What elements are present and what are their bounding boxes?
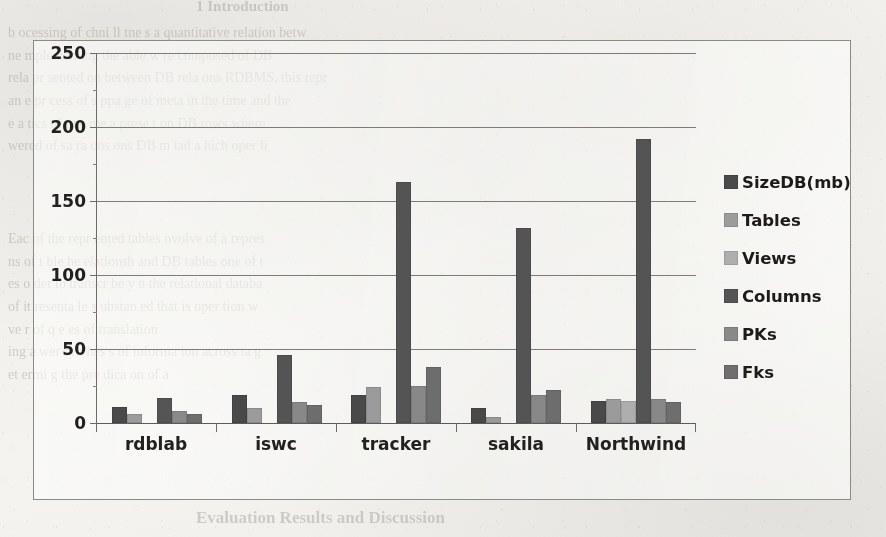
legend-item-pks[interactable]: PKs [724,315,851,353]
legend-label: SizeDB(mb) [742,173,851,192]
scanned-page: 1 Introduction b ocessing of chni ll tne… [0,0,886,537]
bar [471,408,486,423]
chart-legend: SizeDB(mb)TablesViewsColumnsPKsFks [724,163,851,391]
bar [426,367,441,423]
x-axis-label-northwind: Northwind [576,434,696,454]
legend-swatch-icon [724,289,738,303]
y-axis-tick [90,349,97,350]
legend-label: Fks [742,363,774,382]
bar-groups [97,53,696,423]
bar [187,414,202,423]
x-axis-tick [576,423,696,432]
legend-swatch-icon [724,365,738,379]
x-axis-label-tracker: tracker [336,434,456,454]
bar [351,395,366,423]
bar [277,355,292,423]
bar-group-iswc [217,53,337,423]
x-axis-ticks [96,423,696,432]
y-axis-tick-label: 250 [51,43,87,63]
x-axis-tick [96,423,216,432]
bar [396,182,411,423]
bar [546,390,561,423]
x-axis-label-iswc: iswc [216,434,336,454]
plot-area: 050100150200250 rdblabiswctrackersakilaN… [96,53,696,461]
bar [591,401,606,423]
y-axis-tick [90,275,97,276]
x-axis-label-sakila: sakila [456,434,576,454]
bar [157,398,172,423]
bar-group-tracker [337,53,457,423]
bar [112,407,127,423]
y-axis-tick-label: 50 [62,339,86,359]
y-axis-tick [90,53,97,54]
bar [247,408,262,423]
legend-swatch-icon [724,175,738,189]
x-axis-tick [216,423,336,432]
legend-swatch-icon [724,327,738,341]
bar [606,399,621,423]
bar [636,139,651,423]
legend-item-columns[interactable]: Columns [724,277,851,315]
legend-item-tables[interactable]: Tables [724,201,851,239]
bar [232,395,247,423]
x-axis-label-rdblab: rdblab [96,434,216,454]
bar [366,387,381,423]
legend-item-sizedbmb[interactable]: SizeDB(mb) [724,163,851,201]
y-axis-tick-label: 200 [51,117,87,137]
bar [307,405,322,423]
bar [651,399,666,423]
legend-label: PKs [742,325,777,344]
legend-label: Columns [742,287,822,306]
bar [411,386,426,423]
legend-label: Views [742,249,796,268]
bar [531,395,546,423]
y-axis-tick [90,127,97,128]
bar-chart: 050100150200250 rdblabiswctrackersakilaN… [33,40,851,500]
x-axis-tick [336,423,456,432]
bar [666,402,681,423]
bar [516,228,531,423]
x-axis-tick [456,423,576,432]
bar [621,401,636,423]
legend-item-views[interactable]: Views [724,239,851,277]
y-axis-tick-label: 150 [51,191,87,211]
bar-group-sakila [456,53,576,423]
x-axis-labels: rdblabiswctrackersakilaNorthwind [96,434,696,454]
bar-group-northwind [576,53,696,423]
legend-swatch-icon [724,251,738,265]
plot-inner: 050100150200250 [96,53,696,423]
bar [127,414,142,423]
bar [172,411,187,423]
bar-group-rdblab [97,53,217,423]
legend-label: Tables [742,211,801,230]
legend-swatch-icon [724,213,738,227]
y-axis-tick [90,201,97,202]
y-axis-tick-label: 100 [51,265,87,285]
bar [292,402,307,423]
y-axis-tick-label: 0 [74,413,86,433]
legend-item-fks[interactable]: Fks [724,353,851,391]
